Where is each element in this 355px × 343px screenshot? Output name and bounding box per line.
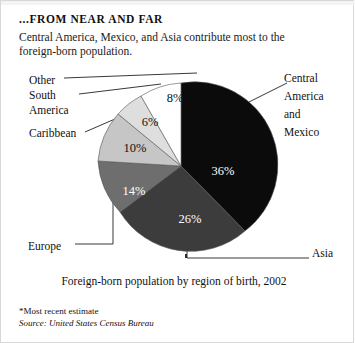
leader-other bbox=[64, 73, 197, 78]
leader-asia bbox=[187, 251, 309, 258]
pie-chart: 36% 26% 14% 10% 6% 8% bbox=[1, 1, 355, 343]
chart-source: Source: United States Census Bureau bbox=[19, 318, 154, 328]
category-label-south: South bbox=[29, 89, 56, 101]
category-label-europe: Europe bbox=[28, 239, 61, 254]
central-line-4: Mexico bbox=[284, 126, 319, 138]
category-label-other: Other bbox=[29, 73, 55, 88]
data-label-caribbean: 10% bbox=[124, 141, 147, 155]
category-label-caribbean: Caribbean bbox=[29, 126, 76, 141]
central-line-3: and bbox=[284, 108, 301, 120]
leader-central bbox=[249, 83, 287, 102]
central-line-2: America bbox=[284, 90, 324, 102]
central-line-1: Central bbox=[284, 72, 318, 84]
leader-europe bbox=[75, 190, 113, 244]
category-label-asia: Asia bbox=[312, 246, 333, 261]
chart-footnote: *Most recent estimate bbox=[19, 306, 98, 316]
category-label-central-america-and-mexico: Central America and Mexico bbox=[284, 69, 350, 141]
chart-caption: Foreign-born population by region of bir… bbox=[59, 273, 289, 289]
category-label-south-america: South America bbox=[29, 88, 69, 117]
data-label-central: 36% bbox=[212, 164, 235, 178]
data-label-other: 8% bbox=[167, 91, 184, 105]
data-label-asia: 26% bbox=[179, 212, 202, 226]
category-label-america: America bbox=[29, 104, 69, 116]
data-label-south-america: 6% bbox=[142, 115, 159, 129]
data-label-europe: 14% bbox=[123, 184, 146, 198]
